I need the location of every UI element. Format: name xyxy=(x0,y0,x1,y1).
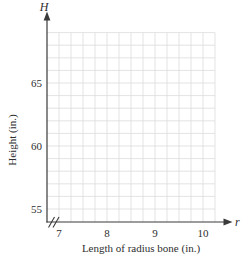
blank-coordinate-grid: 78910556065 H r Height (in.) Length of r… xyxy=(0,0,252,264)
tick-labels: 78910556065 xyxy=(31,77,209,239)
x-tick-label: 9 xyxy=(152,227,158,239)
y-tick-label: 60 xyxy=(31,140,43,152)
x-tick-label: 8 xyxy=(104,227,110,239)
x-tick-label: 10 xyxy=(198,227,210,239)
x-axis-title: Length of radius bone (in.) xyxy=(82,242,201,255)
x-tick-label: 7 xyxy=(56,227,62,239)
y-axis-symbol: H xyxy=(39,0,50,14)
x-axis-symbol: r xyxy=(235,215,240,229)
x-axis-arrowhead xyxy=(224,219,233,226)
grid-lines xyxy=(47,33,215,222)
axes xyxy=(44,12,233,228)
y-tick-label: 65 xyxy=(31,77,43,89)
graph-figure: 78910556065 H r Height (in.) Length of r… xyxy=(0,0,252,264)
y-tick-label: 55 xyxy=(31,203,43,215)
y-axis-title: Height (in.) xyxy=(6,114,19,166)
